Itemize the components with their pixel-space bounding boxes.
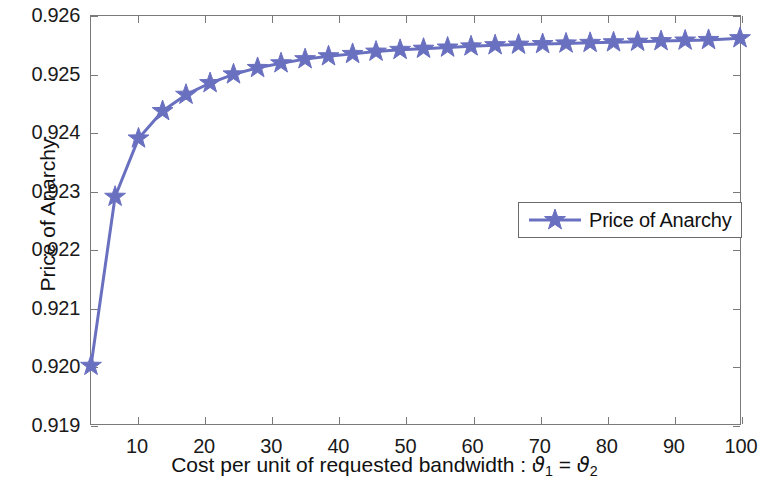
series-marker-star [200, 72, 221, 92]
theta-symbol-2: ϑ [577, 453, 590, 477]
y-axis-tick [91, 426, 98, 427]
series-marker-star [342, 43, 363, 63]
series-marker-star [318, 45, 339, 65]
y-axis-title: Price of Anarchy [36, 65, 60, 365]
series-marker-star [603, 31, 624, 51]
x-axis-tick-top [742, 16, 743, 23]
theta-subscript-2: 2 [590, 463, 598, 479]
equals-sign: = [553, 453, 577, 476]
series-marker-star [271, 52, 292, 72]
legend-marker-star-icon [527, 207, 583, 233]
theta-subscript-1: 1 [545, 463, 553, 479]
y-axis-tick-label: 0.926 [0, 4, 80, 27]
series-marker-star [223, 63, 244, 83]
y-axis-tick-label: 0.924 [0, 121, 80, 144]
series-marker-star [580, 32, 601, 52]
x-axis-tick [742, 417, 743, 424]
legend-star-marker [545, 209, 566, 229]
x-axis-title: Cost per unit of requested bandwidth : ϑ… [0, 453, 769, 479]
series-marker-star [651, 30, 672, 50]
y-axis-tick-label: 0.919 [0, 414, 80, 437]
y-axis-tick-label: 0.921 [0, 296, 80, 319]
y-axis-tick-label: 0.925 [0, 62, 80, 85]
series-marker-star [698, 29, 719, 49]
series-marker-star [152, 100, 173, 120]
series-marker-star [295, 48, 316, 68]
series-marker-star [461, 35, 482, 55]
series-marker-star [81, 355, 102, 375]
series-marker-star [485, 34, 506, 54]
series-marker-star [437, 37, 458, 57]
series-marker-star [366, 41, 387, 61]
series-marker-star [556, 32, 577, 52]
series-marker-star [247, 57, 268, 77]
y-axis-tick-label: 0.920 [0, 355, 80, 378]
theta-symbol-1: ϑ [532, 453, 545, 477]
series-marker-star [730, 27, 751, 47]
y-axis-tick-label: 0.922 [0, 238, 80, 261]
series-marker-star [508, 34, 529, 54]
series-marker-star [675, 30, 696, 50]
series-marker-star [627, 31, 648, 51]
chart-figure: Price of Anarchy 0.9190.9200.9210.9220.9… [0, 0, 769, 491]
legend-entry-label: Price of Anarchy [589, 209, 731, 232]
y-axis-tick-label: 0.923 [0, 179, 80, 202]
x-axis-title-prefix: Cost per unit of requested bandwidth : [171, 453, 532, 476]
series-marker-star [532, 33, 553, 53]
y-axis-tick-right [733, 426, 740, 427]
series-marker-star [390, 39, 411, 59]
series-marker-star [413, 38, 434, 58]
chart-legend: Price of Anarchy [518, 202, 742, 238]
